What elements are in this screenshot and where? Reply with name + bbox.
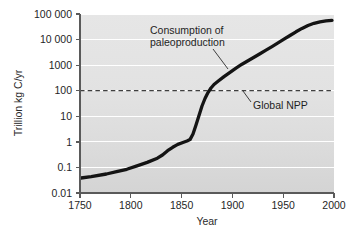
- x-axis-title: Year: [196, 215, 218, 227]
- y-tick-label: 100: [54, 84, 72, 96]
- x-tick-label: 1950: [272, 199, 296, 211]
- x-tick-label: 1750: [68, 199, 92, 211]
- global-npp-annotation-label: Global NPP: [253, 99, 308, 111]
- y-tick-label: 100 000: [34, 8, 72, 20]
- y-tick-label: 1000: [49, 59, 73, 71]
- consumption-annotation-line2: paleoproduction: [150, 36, 225, 48]
- y-tick-label: 0.01: [52, 187, 73, 199]
- x-tick-label: 1900: [221, 199, 245, 211]
- x-tick-label: 1800: [119, 199, 143, 211]
- consumption-annotation-line1: Consumption of: [150, 24, 224, 36]
- y-tick-label: 0.1: [57, 161, 72, 173]
- chart-figure: 100 000 10 000 1000 100 10 1 0.1 0.01 17…: [0, 0, 350, 233]
- x-tick-label: 1850: [170, 199, 194, 211]
- y-axis-title: Trillion kg C/yr: [12, 69, 24, 136]
- x-tick-label: 2000: [322, 199, 346, 211]
- y-tick-label: 10: [60, 110, 72, 122]
- y-tick-label: 1: [66, 136, 72, 148]
- y-tick-label: 10 000: [40, 33, 72, 45]
